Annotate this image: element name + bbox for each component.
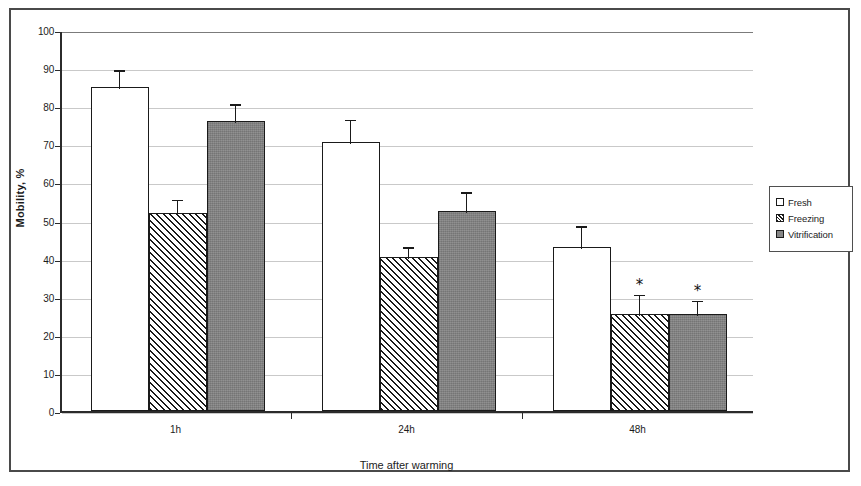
error-bar-stem-fresh-48h [581, 226, 582, 249]
bar-fresh-1h [91, 87, 149, 411]
error-bar-stem-freezing-48h [639, 295, 640, 316]
bar-chart-figure: Mobility, % 0102030405060708090100 ** 1h… [0, 0, 861, 486]
error-bar-stem-freezing-1h [177, 200, 178, 215]
legend-swatch-open-icon [776, 198, 784, 206]
error-bar-stem-freezing-24h [408, 247, 409, 258]
bar-freezing-48h [611, 314, 669, 411]
error-bar-cap-freezing-24h [403, 247, 414, 249]
x-tick-mark-2 [522, 413, 523, 419]
legend-label: Freezing [788, 213, 824, 224]
gridline-100 [62, 32, 753, 33]
y-tick-label-60: 60 [43, 179, 54, 189]
bar-fresh-24h [322, 142, 380, 411]
plot-area: ** [60, 32, 753, 413]
error-bar-stem-vitrification-48h [697, 301, 698, 316]
y-tick-label-80: 80 [43, 103, 54, 113]
legend-label: Fresh [788, 197, 812, 208]
gridline-60 [62, 184, 753, 185]
gridline-90 [62, 70, 753, 71]
x-tick-label-1h: 1h [136, 424, 216, 435]
y-tick-label-30: 30 [43, 294, 54, 304]
significance-marker-freezing-48h: * [633, 278, 647, 293]
error-bar-cap-vitrification-24h [461, 192, 472, 194]
error-bar-cap-freezing-48h [634, 295, 645, 297]
legend-swatch-hatch-icon [776, 214, 784, 222]
y-tick-mark-60 [55, 184, 60, 185]
legend-item-fresh: Fresh [776, 196, 847, 208]
y-tick-mark-30 [55, 299, 60, 300]
legend-item-vitrification: Vitrification [776, 228, 847, 240]
error-bar-stem-fresh-24h [350, 120, 351, 145]
y-tick-mark-50 [55, 223, 60, 224]
y-tick-mark-0 [55, 413, 60, 414]
error-bar-cap-fresh-24h [345, 120, 356, 122]
y-tick-label-10: 10 [43, 370, 54, 380]
gridline-0 [62, 413, 753, 414]
significance-marker-vitrification-48h: * [691, 284, 705, 299]
bar-freezing-24h [380, 257, 438, 411]
gridline-80 [62, 108, 753, 109]
y-tick-mark-100 [55, 32, 60, 33]
y-tick-label-70: 70 [43, 141, 54, 151]
chart-legend: FreshFreezingVitrification [769, 186, 853, 252]
bar-fresh-48h [553, 247, 611, 411]
screenshot-root: Mobility, % 0102030405060708090100 ** 1h… [0, 0, 861, 486]
legend-swatch-gray-icon [776, 230, 784, 238]
y-tick-label-50: 50 [43, 218, 54, 228]
y-tick-mark-10 [55, 375, 60, 376]
y-tick-mark-80 [55, 108, 60, 109]
legend-label: Vitrification [788, 229, 833, 240]
bar-vitrification-1h [207, 121, 265, 411]
y-tick-mark-20 [55, 337, 60, 338]
error-bar-cap-fresh-48h [576, 226, 587, 228]
error-bar-cap-freezing-1h [172, 200, 183, 202]
y-axis-tick-labels: 0102030405060708090100 [22, 32, 54, 413]
y-tick-label-0: 0 [49, 408, 54, 418]
error-bar-stem-vitrification-1h [235, 104, 236, 123]
error-bar-cap-vitrification-48h [692, 301, 703, 303]
y-tick-mark-70 [55, 146, 60, 147]
x-tick-label-24h: 24h [367, 424, 447, 435]
bar-vitrification-24h [438, 211, 496, 411]
gridline-70 [62, 146, 753, 147]
error-bar-stem-fresh-1h [119, 70, 120, 89]
error-bar-cap-vitrification-1h [230, 104, 241, 106]
error-bar-cap-fresh-1h [114, 70, 125, 72]
y-tick-label-40: 40 [43, 256, 54, 266]
y-tick-mark-40 [55, 261, 60, 262]
bar-vitrification-48h [669, 314, 727, 411]
legend-item-freezing: Freezing [776, 212, 847, 224]
y-tick-mark-90 [55, 70, 60, 71]
x-tick-label-48h: 48h [598, 424, 678, 435]
y-tick-label-20: 20 [43, 332, 54, 342]
y-tick-label-90: 90 [43, 65, 54, 75]
plot-inner: ** [62, 32, 753, 411]
bar-freezing-1h [149, 213, 207, 411]
x-axis-title: Time after warming [60, 459, 753, 471]
error-bar-stem-vitrification-24h [466, 192, 467, 213]
x-tick-mark-1 [291, 413, 292, 419]
y-tick-label-100: 100 [38, 27, 54, 37]
